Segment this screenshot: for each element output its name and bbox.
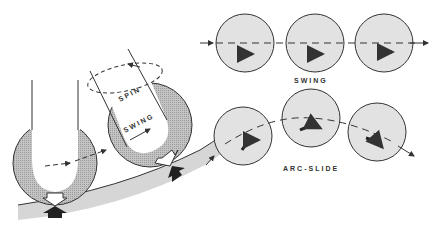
swing-spin-arc-slide-diagram: SPIN SWING SWING ARC-SLIDE [0,0,438,231]
arc-slide-panel: ARC-SLIDE [214,89,414,172]
label-swing-right: SWING [294,77,328,84]
ball-upright [13,80,97,205]
label-arc-slide: ARC-SLIDE [283,165,339,172]
swing-panel: SWING [200,14,428,84]
arc-ball-2 [282,89,340,147]
ball-tilted [88,40,192,167]
arc-ball-3 [348,103,406,161]
arc-ball-1 [214,107,272,165]
